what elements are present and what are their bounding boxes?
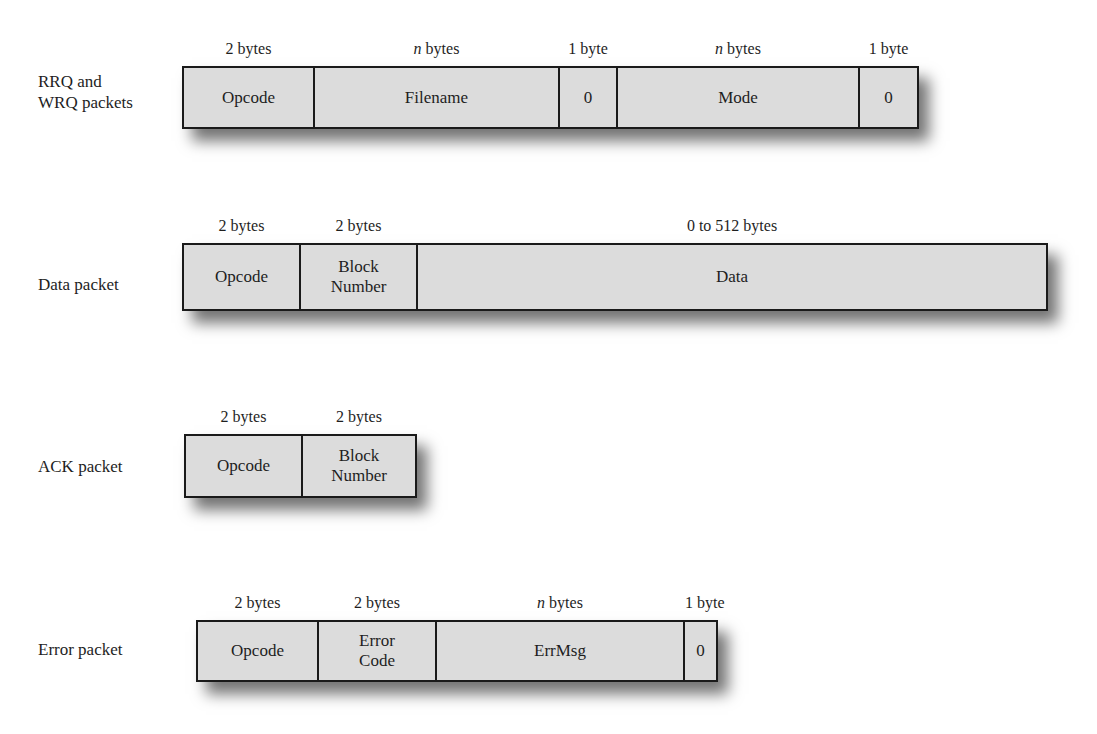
size-label: 1 byte — [560, 39, 616, 59]
field-name: 0 — [696, 641, 705, 661]
size-label: n bytes — [437, 593, 683, 613]
size-label: n bytes — [315, 39, 558, 59]
field-name: Opcode — [222, 88, 275, 108]
field-name: Mode — [718, 88, 758, 108]
size-label: 2 bytes — [319, 593, 435, 613]
field-data: 0 to 512 bytes Data — [418, 245, 1046, 309]
label-line: ACK packet — [38, 456, 123, 477]
size-label: n bytes — [618, 39, 858, 59]
field-zero-terminator: 1 byte 0 — [560, 68, 618, 127]
size-label: 1 byte — [685, 593, 716, 613]
label-line: WRQ packets — [38, 92, 133, 113]
field-name: Filename — [405, 88, 468, 108]
size-label: 2 bytes — [186, 407, 301, 427]
size-label: 2 bytes — [184, 216, 299, 236]
field-filename: n bytes Filename — [315, 68, 560, 127]
field-error-code: 2 bytes Error Code — [319, 622, 437, 680]
label-line: Data packet — [38, 274, 119, 295]
field-name: 0 — [884, 88, 893, 108]
packet-row-rrq-wrq: 2 bytes Opcode n bytes Filename 1 byte 0… — [182, 66, 919, 129]
field-zero-terminator: 1 byte 0 — [685, 622, 716, 680]
field-opcode: 2 bytes Opcode — [184, 68, 315, 127]
size-label: 0 to 512 bytes — [418, 216, 1046, 236]
packet-label-ack: ACK packet — [38, 456, 123, 477]
field-block-number: 2 bytes Block Number — [303, 436, 415, 496]
size-label: 2 bytes — [303, 407, 415, 427]
tftp-packet-format-diagram: RRQ and WRQ packets 2 bytes Opcode n byt… — [0, 0, 1097, 734]
field-opcode: 2 bytes Opcode — [186, 436, 303, 496]
label-line: RRQ and — [38, 71, 133, 92]
field-name: ErrMsg — [534, 641, 586, 661]
field-name: Opcode — [217, 456, 270, 476]
field-name: Block Number — [331, 257, 387, 297]
field-name: 0 — [584, 88, 593, 108]
packet-label-rrq-wrq: RRQ and WRQ packets — [38, 71, 133, 113]
size-label: 1 byte — [860, 39, 917, 59]
packet-row-data: 2 bytes Opcode 2 bytes Block Number 0 to… — [182, 243, 1048, 311]
packet-row-ack: 2 bytes Opcode 2 bytes Block Number — [184, 434, 417, 498]
field-name: Error Code — [359, 631, 395, 671]
packet-row-error: 2 bytes Opcode 2 bytes Error Code n byte… — [196, 620, 718, 682]
size-label: 2 bytes — [198, 593, 317, 613]
field-name: Opcode — [231, 641, 284, 661]
size-label: 2 bytes — [301, 216, 416, 236]
field-zero-terminator: 1 byte 0 — [860, 68, 917, 127]
field-name: Opcode — [215, 267, 268, 287]
field-opcode: 2 bytes Opcode — [184, 245, 301, 309]
field-block-number: 2 bytes Block Number — [301, 245, 418, 309]
label-line: Error packet — [38, 639, 122, 660]
field-opcode: 2 bytes Opcode — [198, 622, 319, 680]
field-name: Data — [716, 267, 748, 287]
field-errmsg: n bytes ErrMsg — [437, 622, 685, 680]
packet-label-error: Error packet — [38, 639, 122, 660]
size-label: 2 bytes — [184, 39, 313, 59]
field-mode: n bytes Mode — [618, 68, 860, 127]
field-name: Block Number — [331, 446, 387, 486]
packet-label-data: Data packet — [38, 274, 119, 295]
